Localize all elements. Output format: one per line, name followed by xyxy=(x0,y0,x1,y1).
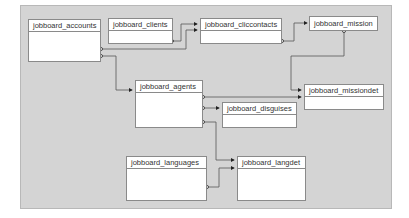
table-jobboard-clients[interactable]: jobboard_clients xyxy=(108,18,173,44)
table-title: jobboard_langdet xyxy=(238,157,305,169)
table-jobboard-mission[interactable]: jobboard_mission xyxy=(309,16,378,31)
table-jobboard-accounts[interactable]: jobboard_accounts xyxy=(28,19,101,62)
table-title: jobboard_accounts xyxy=(29,20,100,32)
table-title: jobboard_clients xyxy=(109,19,172,31)
table-jobboard-languages[interactable]: jobboard_languages xyxy=(126,156,207,201)
table-title: jobboard_agents xyxy=(136,81,202,93)
table-title: jobboard_cliccontacts xyxy=(201,19,281,31)
table-title: jobboard_missiondet xyxy=(305,85,383,97)
table-jobboard-langdet[interactable]: jobboard_langdet xyxy=(237,156,306,201)
table-jobboard-agents[interactable]: jobboard_agents xyxy=(135,80,203,128)
table-jobboard-cliccontacts[interactable]: jobboard_cliccontacts xyxy=(200,18,282,44)
table-title: jobboard_mission xyxy=(310,17,377,30)
table-jobboard-disguises[interactable]: jobboard_disguises xyxy=(222,102,297,128)
table-title: jobboard_languages xyxy=(127,157,206,169)
table-title: jobboard_disguises xyxy=(223,103,296,115)
table-jobboard-missiondet[interactable]: jobboard_missiondet xyxy=(304,84,384,110)
